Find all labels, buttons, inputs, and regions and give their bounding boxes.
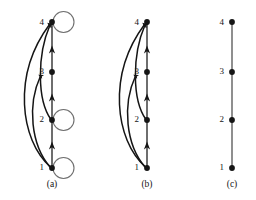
vertex-3 <box>144 69 150 75</box>
panel-b-spine <box>144 22 150 168</box>
vertex-1 <box>49 165 55 171</box>
panel-b-vertex-label-2: 2 <box>127 115 139 124</box>
panel-b-vertex-label-3: 3 <box>127 67 139 76</box>
panel-a-arcs <box>24 25 51 168</box>
panel-c-vertex-label-4: 4 <box>212 18 224 27</box>
vertex-4 <box>144 19 150 25</box>
vertex-3 <box>229 69 235 75</box>
panel-c-vertex-label-2: 2 <box>212 115 224 124</box>
panel-b-arcs <box>119 25 146 168</box>
self-loop-vertex-1 <box>53 158 74 179</box>
panel-a <box>24 12 74 179</box>
self-loop-vertex-4 <box>53 12 74 33</box>
vertex-1 <box>229 165 235 171</box>
vertex-2 <box>144 117 150 123</box>
panel-b <box>119 19 150 171</box>
vertex-3 <box>49 69 55 75</box>
self-loop-vertex-2 <box>53 110 74 131</box>
panel-c <box>229 19 235 171</box>
panel-caption-c: (c) <box>214 180 250 190</box>
panel-a-vertex-label-4: 4 <box>32 18 44 27</box>
panel-a-spine <box>49 22 55 168</box>
panel-a-vertex-label-1: 1 <box>32 163 44 172</box>
panel-b-vertex-label-4: 4 <box>127 18 139 27</box>
vertex-2 <box>229 117 235 123</box>
panel-b-vertex-label-1: 1 <box>127 163 139 172</box>
panel-c-vertex-label-3: 3 <box>212 67 224 76</box>
panel-c-vertex-label-1: 1 <box>212 163 224 172</box>
panel-caption-a: (a) <box>34 180 70 190</box>
panel-a-vertex-label-3: 3 <box>32 67 44 76</box>
graph-figure: 4 3 2 1 4 3 2 1 4 3 2 1 (a) (b) (c) <box>0 0 256 200</box>
vertex-1 <box>144 165 150 171</box>
vertex-2 <box>49 117 55 123</box>
panel-caption-b: (b) <box>129 180 165 190</box>
panel-a-vertex-label-2: 2 <box>32 115 44 124</box>
vertex-4 <box>229 19 235 25</box>
panel-a-self-loops <box>53 12 74 179</box>
vertex-4 <box>49 19 55 25</box>
